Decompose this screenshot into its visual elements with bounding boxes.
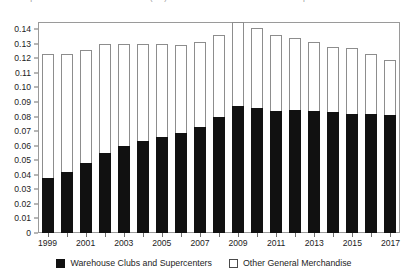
y-axis-tick-label: 0.04	[14, 170, 31, 179]
x-axis-tick-label: 2013	[305, 238, 324, 248]
x-axis: 1999200120032005200720092011201320152017	[38, 233, 400, 255]
bar-column	[365, 54, 377, 233]
y-axis: 00.010.020.030.040.050.060.070.080.090.1…	[0, 22, 38, 233]
bar-segment-warehouse-clubs-and-supercenters	[156, 137, 168, 233]
y-axis-tick-label: 0	[26, 229, 31, 238]
chart-legend: Warehouse Clubs and SupercentersOther Ge…	[0, 255, 408, 271]
bar-column	[118, 44, 130, 233]
chart-title: 2. Components of General Merchandise (4%…	[4, 0, 408, 2]
y-axis-tick-label: 0.14	[14, 25, 31, 34]
x-axis-tick-mark	[371, 233, 372, 237]
bar-column	[251, 28, 263, 233]
x-axis-tick-mark	[181, 233, 182, 237]
bar-column	[156, 44, 168, 233]
bar-segment-warehouse-clubs-and-supercenters	[42, 178, 54, 233]
y-axis-tick-label: 0.13	[14, 39, 31, 48]
bar-segment-warehouse-clubs-and-supercenters	[327, 112, 339, 233]
legend-swatch-icon	[229, 259, 238, 268]
y-axis-tick-label: 0.09	[14, 98, 31, 107]
x-axis-tick-mark	[143, 233, 144, 237]
x-axis-tick-mark	[238, 233, 239, 237]
bar-column	[270, 35, 282, 233]
legend-item-label: Warehouse Clubs and Supercenters	[70, 258, 211, 268]
bar-segment-warehouse-clubs-and-supercenters	[384, 115, 396, 233]
bar-segment-warehouse-clubs-and-supercenters	[346, 114, 358, 233]
x-axis-tick-mark	[276, 233, 277, 237]
bar-segment-warehouse-clubs-and-supercenters	[251, 108, 263, 233]
bar-segment-warehouse-clubs-and-supercenters	[118, 146, 130, 233]
x-axis-tick-mark	[295, 233, 296, 237]
x-axis-tick-label: 2015	[343, 238, 362, 248]
bar-segment-warehouse-clubs-and-supercenters	[194, 127, 206, 233]
x-axis-tick-mark	[314, 233, 315, 237]
bar-column	[61, 54, 73, 233]
y-axis-tick-label: 0.12	[14, 54, 31, 63]
bar-column	[42, 54, 54, 233]
y-axis-tick-label: 0.07	[14, 127, 31, 136]
y-axis-tick-label: 0.11	[15, 68, 31, 77]
bar-segment-warehouse-clubs-and-supercenters	[232, 106, 244, 233]
y-axis-tick-label: 0.03	[14, 185, 31, 194]
legend-swatch-icon	[56, 259, 65, 268]
legend-item: Warehouse Clubs and Supercenters	[56, 258, 211, 268]
x-axis-tick-label: 2001	[76, 238, 95, 248]
bar-segment-warehouse-clubs-and-supercenters	[365, 114, 377, 233]
bar-series-group	[38, 22, 400, 233]
bar-segment-warehouse-clubs-and-supercenters	[213, 117, 225, 233]
legend-item: Other General Merchandise	[229, 258, 352, 268]
x-axis-tick-label: 2017	[381, 238, 400, 248]
bar-segment-warehouse-clubs-and-supercenters	[289, 110, 301, 233]
bar-segment-warehouse-clubs-and-supercenters	[137, 141, 149, 233]
bar-segment-warehouse-clubs-and-supercenters	[99, 153, 111, 233]
bar-column	[99, 44, 111, 233]
x-axis-tick-label: 2005	[152, 238, 171, 248]
bar-column	[384, 60, 396, 233]
bar-column	[289, 38, 301, 233]
x-axis-tick-mark	[105, 233, 106, 237]
x-axis-tick-mark	[333, 233, 334, 237]
x-axis-tick-mark	[162, 233, 163, 237]
bar-segment-warehouse-clubs-and-supercenters	[80, 163, 92, 233]
x-axis-tick-mark	[390, 233, 391, 237]
bar-column	[346, 48, 358, 233]
bar-column	[327, 47, 339, 233]
x-axis-tick-mark	[86, 233, 87, 237]
x-axis-tick-label: 2003	[114, 238, 133, 248]
x-axis-tick-label: 2009	[228, 238, 247, 248]
y-axis-tick-label: 0.01	[14, 214, 31, 223]
x-axis-tick-mark	[48, 233, 49, 237]
bar-column	[137, 44, 149, 233]
y-axis-tick-label: 0.08	[14, 112, 31, 121]
bar-segment-warehouse-clubs-and-supercenters	[270, 111, 282, 233]
chart-figure: 2. Components of General Merchandise (4%…	[0, 0, 408, 276]
x-axis-tick-mark	[257, 233, 258, 237]
x-axis-tick-label: 2011	[267, 238, 285, 248]
x-axis-tick-mark	[200, 233, 201, 237]
bar-column	[213, 35, 225, 233]
x-axis-tick-mark	[67, 233, 68, 237]
bar-column	[80, 50, 92, 233]
y-axis-tick-label: 0.05	[14, 156, 31, 165]
bar-column	[232, 22, 244, 233]
bar-segment-warehouse-clubs-and-supercenters	[61, 172, 73, 233]
bar-column	[175, 45, 187, 233]
bar-segment-warehouse-clubs-and-supercenters	[175, 133, 187, 233]
x-axis-tick-mark	[219, 233, 220, 237]
bar-column	[194, 42, 206, 233]
bar-segment-warehouse-clubs-and-supercenters	[308, 111, 320, 233]
bar-column	[308, 42, 320, 233]
x-axis-tick-label: 2007	[190, 238, 209, 248]
x-axis-tick-label: 1999	[38, 238, 57, 248]
y-axis-tick-label: 0.06	[14, 141, 31, 150]
x-axis-tick-mark	[124, 233, 125, 237]
x-axis-tick-mark	[352, 233, 353, 237]
y-axis-tick-label: 0.02	[14, 199, 31, 208]
y-axis-tick-label: 0.10	[14, 83, 31, 92]
legend-item-label: Other General Merchandise	[243, 258, 352, 268]
